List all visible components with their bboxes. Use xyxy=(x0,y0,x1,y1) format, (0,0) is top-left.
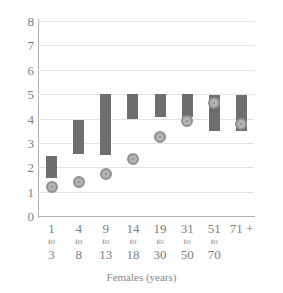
mean-marker-dot xyxy=(46,181,58,193)
y-axis-tick-labels: 012345678 xyxy=(0,0,34,293)
mean-marker-dot xyxy=(73,176,85,188)
range-bar xyxy=(100,94,111,155)
y-axis-tick-label: 1 xyxy=(8,186,34,199)
range-bar xyxy=(127,94,138,118)
y-axis-tick-label: 6 xyxy=(8,64,34,77)
category-separator-label: to xyxy=(196,236,232,247)
mean-marker-dot xyxy=(100,168,112,180)
range-bar xyxy=(182,94,193,117)
range-bar xyxy=(73,120,84,154)
gridline xyxy=(38,143,254,144)
chart-container: 012345678 1to34to89to1314to1819to3031to5… xyxy=(0,0,283,293)
y-axis-tick-label: 3 xyxy=(8,137,34,150)
x-axis-category-labels: 1to34to89to1314to1819to3031to5051to7071 … xyxy=(38,221,255,269)
y-axis-tick-label: 2 xyxy=(8,161,34,174)
mean-marker-dot xyxy=(154,131,166,143)
gridline xyxy=(38,167,254,168)
y-axis-tick-label: 0 xyxy=(8,210,34,223)
y-axis-tick-label: 8 xyxy=(8,15,34,28)
plot-area xyxy=(38,21,254,216)
y-axis-tick-label: 7 xyxy=(8,39,34,52)
y-axis-tick-label: 4 xyxy=(8,113,34,126)
gridline xyxy=(38,45,254,46)
x-axis-line xyxy=(38,216,255,217)
gridline xyxy=(38,119,254,120)
category-start-label: 71 + xyxy=(223,221,259,236)
mean-marker-dot xyxy=(127,153,139,165)
gridline xyxy=(38,21,254,22)
gridline xyxy=(38,192,254,193)
gridline xyxy=(38,70,254,71)
gridline xyxy=(38,94,254,95)
y-axis-tick-label: 5 xyxy=(8,88,34,101)
category-end-label: 70 xyxy=(196,247,232,262)
range-bar xyxy=(46,156,57,178)
x-axis-title: Females (years) xyxy=(0,271,283,283)
range-bar xyxy=(155,94,166,117)
x-axis-category-8: 71 + xyxy=(223,221,259,236)
